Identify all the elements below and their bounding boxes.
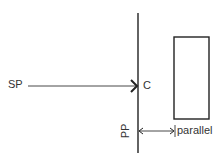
diagram-canvas [0, 0, 222, 165]
object-rectangle [174, 37, 209, 119]
pp-label: PP [119, 124, 131, 139]
sp-label: SP [8, 78, 23, 90]
parallel-label: parallel [177, 124, 212, 136]
c-label: C [143, 79, 151, 91]
